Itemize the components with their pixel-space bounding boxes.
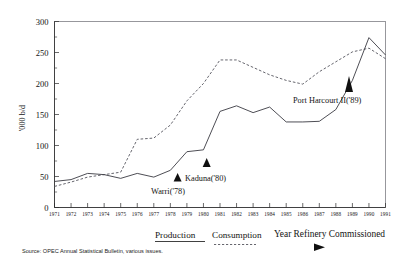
x-tick-label: 1972 (66, 211, 77, 217)
x-tick-label: 1971 (49, 211, 60, 217)
x-tick-label: 1983 (248, 211, 259, 217)
x-tick-label: 1981 (215, 211, 226, 217)
right-triangle-icon (314, 244, 325, 251)
x-tick-label: 1979 (182, 211, 193, 217)
x-tick-label: 1990 (364, 211, 375, 217)
annotation-label-warri: Warri('78) (151, 187, 185, 196)
x-tick-label: 1989 (347, 211, 358, 217)
up-triangle-icon (174, 173, 182, 182)
annotation-kaduna: Kaduna('80) (185, 158, 226, 183)
x-tick-group (55, 203, 386, 208)
x-tick-label: 1975 (115, 211, 126, 217)
y-tick-label: 150 (36, 110, 49, 120)
y-axis-title: '000 b/d (18, 105, 27, 131)
y-tick-label: 0 (44, 203, 48, 213)
x-tick-label: 1985 (281, 211, 292, 217)
y-tick-label: 200 (36, 79, 49, 89)
up-triangle-icon (203, 158, 211, 167)
x-tick-label: 1974 (99, 211, 110, 217)
x-tick-label: 1988 (330, 211, 341, 217)
y-tick-group (55, 22, 60, 208)
x-tick-label: 1991 (380, 211, 391, 217)
annotation-label-port-harcourt: Port Harcourt II('89) (293, 96, 362, 105)
y-tick-label: 300 (36, 17, 49, 27)
x-tick-label: 1986 (297, 211, 308, 217)
annotation-port-harcourt: Port Harcourt II('89) (293, 76, 362, 105)
x-tick-label: 1980 (198, 211, 209, 217)
x-tick-label: 1976 (132, 211, 143, 217)
legend-label-consumption: Consumption (212, 230, 262, 240)
x-tick-label: 1973 (82, 211, 93, 217)
x-tick-label: 1984 (264, 211, 275, 217)
source-note: Source: OPEC Annual Statistical Bulletin… (22, 248, 163, 254)
annotation-label-kaduna: Kaduna('80) (185, 174, 226, 183)
y-tick-label-group: 050100150200250300 (36, 17, 49, 213)
up-triangle-icon (345, 76, 353, 92)
legend-label-commissioned: Year Refinery Commissioned (274, 229, 385, 239)
x-tick-label: 1987 (314, 211, 325, 217)
series-production-line (55, 38, 386, 182)
x-tick-label: 1977 (148, 211, 159, 217)
x-tick-label-group: 1971197219731974197519761977197819791980… (49, 211, 391, 217)
line-chart-svg: 050100150200250300 197119721973197419751… (0, 0, 411, 261)
y-tick-label: 250 (36, 48, 49, 58)
series-consumption-line (55, 48, 386, 186)
legend: Production Consumption Year Refinery Com… (155, 229, 385, 251)
x-tick-label: 1982 (231, 211, 242, 217)
legend-label-production: Production (155, 230, 196, 240)
y-tick-label: 100 (36, 141, 49, 151)
x-tick-label: 1978 (165, 211, 176, 217)
y-tick-label: 50 (40, 172, 49, 182)
chart-figure: 050100150200250300 197119721973197419751… (0, 0, 411, 261)
